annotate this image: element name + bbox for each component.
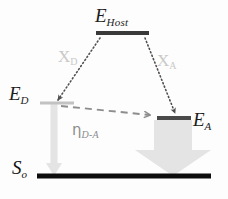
label-x-donor-sub: D [70,56,77,67]
label-e-host-sub: Host [107,16,129,28]
label-x-acceptor: XA [157,52,177,71]
energy-level-diagram: EHost ED EA So XD XA ηD-A [0,0,228,199]
label-eta-sub: D-A [82,129,99,140]
label-e-acceptor-base: E [193,109,205,130]
label-eta-base: η [72,121,82,139]
label-x-donor-base: X [58,47,70,66]
diagram-canvas [0,0,228,199]
label-e-donor-base: E [9,83,21,104]
label-e-host-base: E [95,5,107,26]
label-eta-transfer: ηD-A [72,122,99,140]
label-e-donor-sub: D [21,94,29,106]
label-e-host: EHost [95,6,128,28]
x-acceptor-transfer-arrow [145,38,175,113]
label-s-ground-base: S [12,157,22,178]
label-e-acceptor-sub: A [205,120,212,132]
label-s-ground-sub: o [22,168,28,180]
label-e-donor: ED [9,84,29,106]
label-x-donor: XD [58,48,78,67]
label-x-acceptor-base: X [157,51,169,70]
donor-emission-arrow [46,104,62,176]
label-x-acceptor-sub: A [169,60,176,71]
eta-transfer-arrow [61,106,150,115]
label-e-acceptor: EA [193,110,212,132]
label-s-ground: So [12,158,27,180]
